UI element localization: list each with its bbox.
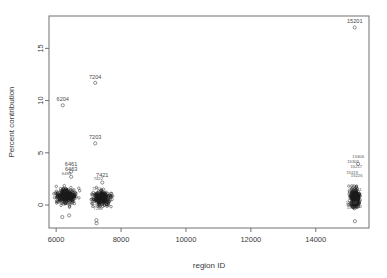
x-tick-label: 14000: [305, 235, 326, 244]
y-axis-title: Percent contribution: [7, 86, 16, 157]
x-tick-label: 6000: [48, 235, 65, 244]
y-tick-label: 10: [36, 96, 45, 104]
point-label: 7422: [94, 176, 104, 181]
point-label: 7288: [93, 206, 103, 211]
point-label: 15119: [347, 205, 359, 210]
point-label: 15461: [350, 187, 362, 192]
point-label: 15201: [347, 18, 363, 24]
point-label: 7203: [89, 134, 101, 140]
x-tick-label: 8000: [113, 235, 130, 244]
x-tick-label: 12000: [240, 235, 261, 244]
x-axis-title: region ID: [193, 261, 226, 270]
y-axis: 051015: [36, 44, 49, 207]
x-axis: 60008000100001200014000: [48, 228, 326, 244]
scatter-plot-figure: 1520172046204720364616463153067421649963…: [0, 0, 387, 278]
y-tick-label: 5: [36, 151, 45, 155]
y-tick-label: 15: [36, 44, 45, 52]
plot-canvas: 1520172046204720364616463153067421649963…: [0, 0, 387, 278]
y-tick-label: 0: [36, 203, 45, 207]
point-label: 6362: [65, 201, 75, 206]
point-label: 7261: [92, 186, 102, 191]
point-label: 6204: [57, 96, 69, 102]
point-label: 15226: [351, 173, 363, 178]
x-tick-label: 10000: [176, 235, 197, 244]
point-label: 6499: [62, 171, 72, 176]
point-label: 7204: [89, 74, 101, 80]
